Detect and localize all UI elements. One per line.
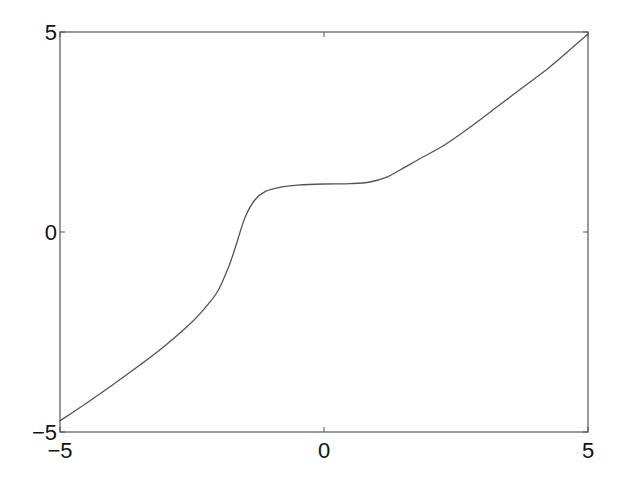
x-tick-label: 0 [318,438,330,463]
x-tick-label: 5 [582,438,594,463]
line-chart: −5 0 5 −5 0 5 [0,0,624,483]
y-tick-label: 0 [45,220,57,245]
x-axis-tick-labels: −5 0 5 [47,438,594,463]
y-tick-label: −5 [32,420,57,445]
y-tick-label: 5 [45,20,57,45]
plot-area-frame [60,32,588,432]
y-axis-tick-labels: −5 0 5 [32,20,57,445]
